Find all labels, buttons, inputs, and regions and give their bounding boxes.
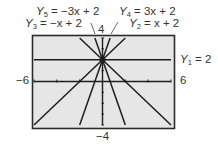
intersection-point: [100, 57, 106, 63]
label-ymin: −4: [96, 131, 109, 143]
label-y5-rhs: = −3x + 2: [48, 5, 99, 17]
label-ymax: 4: [98, 24, 104, 36]
label-y5-name: Y: [36, 5, 44, 17]
label-y4-rhs: = 3x + 2: [131, 5, 176, 17]
label-y1-rhs: = 2: [192, 53, 212, 65]
label-xmax: 6: [180, 75, 186, 87]
leader-y4: [111, 22, 118, 34]
label-y4-name: Y: [119, 5, 127, 17]
label-y3-name: Y: [25, 17, 33, 29]
label-y2-rhs: = x + 2: [141, 17, 179, 29]
leader-y5: [91, 23, 95, 34]
label-y1-name: Y: [180, 53, 188, 65]
label-y1: Y1 = 2: [180, 54, 211, 67]
label-y3: Y3 = −x + 2: [25, 18, 82, 31]
graph-figure: Y5 = −3x + 2 Y3 = −x + 2 Y4 = 3x + 2 Y2 …: [0, 0, 218, 144]
label-y2: Y2 = x + 2: [129, 18, 179, 31]
label-leader-lines: [91, 22, 118, 34]
label-y2-name: Y: [129, 17, 137, 29]
label-y3-rhs: = −x + 2: [37, 17, 82, 29]
label-xmin: −6: [16, 75, 29, 87]
